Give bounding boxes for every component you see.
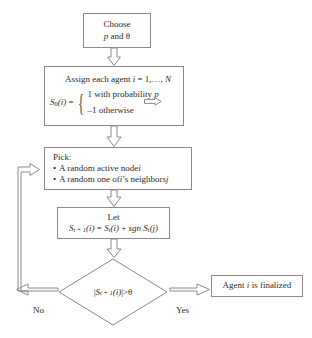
node-choose: Choose p and θ	[83, 13, 151, 48]
let-formula: St + 1(i) = St(i) + sgn St(j)	[69, 223, 158, 235]
let-plus: +	[119, 223, 129, 233]
let-s3: S	[141, 223, 148, 233]
edge-let-to-decision	[107, 239, 121, 258]
let-arg1: (i)	[86, 223, 95, 233]
assign-header-range: = 1,…,	[135, 74, 165, 84]
choose-line-2: p and θ	[104, 31, 130, 42]
edge-choose-to-assign	[108, 48, 121, 66]
node-let: Let St + 1(i) = St(i) + sgn St(j)	[57, 207, 170, 239]
assign-header-var-n: N	[165, 74, 171, 84]
choose-line-1: Choose	[104, 19, 131, 30]
edge-pick-to-let	[107, 190, 121, 207]
let-sub1: t + 1	[73, 226, 86, 233]
let-arg2: (i)	[110, 223, 119, 233]
edge-assign-to-pick	[107, 126, 121, 147]
pick-bullet-2: • A random one of i’s neighbors j	[53, 174, 169, 185]
choose-param-theta: θ	[126, 31, 130, 41]
pick-bullet-2-text-after: ’s neighbors	[122, 174, 166, 185]
choose-conjunction: and	[108, 31, 126, 41]
node-assign: Assign each agent i = 1,…, N S0(i) = { 1…	[44, 66, 184, 126]
node-pick: Pick: • A random active node i • A rando…	[44, 147, 192, 190]
final-text: Agent i is finalized	[223, 280, 292, 291]
node-final: Agent i is finalized	[211, 275, 303, 297]
let-arg3: (j)	[150, 223, 159, 233]
assign-header: Assign each agent i = 1,…, N	[45, 74, 187, 85]
assign-piecewise: S0(i) = { 1 with probability p –1 otherw…	[45, 87, 188, 118]
assign-lhs-arg: (i)	[58, 97, 67, 107]
pick-bullet-2-text: A random one of	[59, 174, 120, 185]
edge-label-no: No	[33, 305, 44, 315]
assign-lhs: S0(i) =	[50, 97, 74, 109]
pick-bullet-2-var-j: j	[166, 174, 169, 185]
let-header: Let	[108, 212, 120, 223]
edge-decision-yes	[170, 284, 210, 295]
right-arrow-glyph	[144, 97, 162, 109]
pick-bullet-1-var-i: i	[138, 163, 141, 174]
pick-bullet-1: • A random active node i	[53, 163, 141, 174]
final-text-before: Agent	[223, 280, 247, 290]
let-equals: =	[95, 223, 105, 233]
decision-arg: (i)	[113, 287, 122, 297]
pick-header: Pick:	[53, 152, 72, 163]
assign-lhs-equals: =	[66, 97, 73, 107]
pick-bullet-1-text: A random active node	[59, 163, 138, 174]
decision-theta: θ	[128, 287, 132, 297]
decision-label: |St + 1(i)| > θ	[58, 258, 168, 326]
let-sgn: sgn	[129, 223, 142, 233]
assign-header-prefix: Assign each agent	[65, 74, 133, 84]
flowchart-canvas: Choose p and θ Assign each agent i = 1,……	[0, 0, 312, 338]
node-decision: |St + 1(i)| > θ	[58, 258, 168, 326]
final-text-after: is finalized	[249, 280, 291, 290]
edge-label-yes: Yes	[176, 305, 189, 315]
decision-sub: t + 1	[100, 289, 113, 296]
